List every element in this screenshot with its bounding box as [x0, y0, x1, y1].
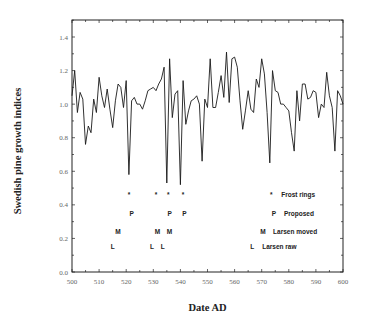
legend-label: Larsen raw: [262, 243, 297, 250]
x-tick-label: 590: [311, 278, 322, 286]
x-axis-label: Date AD: [72, 302, 343, 313]
y-tick-label: 0.6: [59, 168, 68, 176]
data-series: [72, 52, 343, 185]
larsen-raw-marker: L: [161, 243, 165, 250]
y-tick-label: 1.2: [59, 67, 68, 75]
x-tick-label: 600: [338, 278, 349, 286]
y-axis-label: Swedish pine growth indices: [2, 26, 32, 276]
x-tick-label: 570: [256, 278, 267, 286]
y-tick-label: 1.4: [59, 34, 68, 42]
y-axis-label-text: Swedish pine growth indices: [12, 88, 23, 215]
y-tick-label: 0.0: [59, 269, 68, 277]
x-tick-label: 560: [229, 278, 240, 286]
chart-figure: 5005105205305405505605705805906000.00.20…: [0, 0, 365, 326]
y-tick-label: 0.8: [59, 134, 68, 142]
legend-label: Larsen moved: [273, 228, 317, 235]
frost-ring-marker: *: [155, 191, 158, 198]
legend: *Frost ringsPProposedMLarsen movedLLarse…: [250, 191, 317, 250]
y-tick-label: 1.0: [59, 101, 68, 109]
x-tick-label: 500: [67, 278, 78, 286]
x-tick-label: 530: [148, 278, 159, 286]
x-tick-label: 540: [175, 278, 186, 286]
proposed-marker: P: [182, 210, 187, 217]
growth-index-line: [72, 52, 343, 185]
larsen-moved-marker: M: [115, 228, 120, 235]
x-tick-label: 550: [202, 278, 213, 286]
larsen-moved-marker: M: [155, 228, 160, 235]
frost-ring-marker: *: [167, 191, 170, 198]
x-tick-label: 510: [94, 278, 105, 286]
event-markers: ****PPPMMMLLL: [111, 191, 188, 250]
legend-label: Proposed: [284, 210, 314, 218]
y-tick-label: 0.4: [59, 201, 68, 209]
y-tick-label: 0.2: [59, 235, 68, 243]
larsen-raw-marker: L: [111, 243, 115, 250]
frost-ring-marker: *: [128, 191, 131, 198]
legend-symbol: L: [250, 243, 254, 250]
legend-symbol: M: [260, 228, 265, 235]
ticks: 5005105205305405505605705805906000.00.20…: [59, 20, 349, 286]
x-tick-label: 580: [284, 278, 295, 286]
legend-symbol: *: [270, 191, 273, 198]
legend-symbol: P: [272, 210, 277, 217]
proposed-marker: P: [129, 210, 134, 217]
frost-ring-marker: *: [182, 191, 185, 198]
plot-area: 5005105205305405505605705805906000.00.20…: [0, 0, 365, 326]
larsen-moved-marker: M: [167, 228, 172, 235]
larsen-raw-marker: L: [150, 243, 154, 250]
legend-label: Frost rings: [281, 191, 315, 199]
proposed-marker: P: [167, 210, 172, 217]
x-tick-label: 520: [121, 278, 132, 286]
